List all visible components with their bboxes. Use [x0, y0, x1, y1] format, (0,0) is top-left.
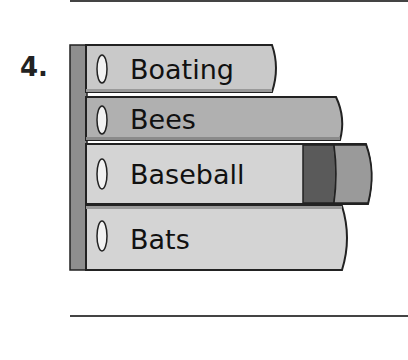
book-oval-icon: [97, 159, 107, 189]
bottom-answer-line: [70, 315, 408, 317]
book-bees: [86, 97, 342, 140]
book-title-bats: Bats: [130, 226, 190, 253]
book-oval-icon: [97, 106, 107, 134]
book-band: [303, 145, 336, 203]
book-title-boating: Boating: [130, 56, 234, 83]
book-title-bees: Bees: [130, 106, 196, 133]
book-title-baseball: Baseball: [130, 161, 244, 188]
book-oval-icon: [97, 221, 107, 251]
book-bats: [86, 206, 347, 270]
book-oval-icon: [97, 55, 107, 83]
book-tab: [334, 145, 372, 203]
shelf-bar: [70, 45, 87, 270]
